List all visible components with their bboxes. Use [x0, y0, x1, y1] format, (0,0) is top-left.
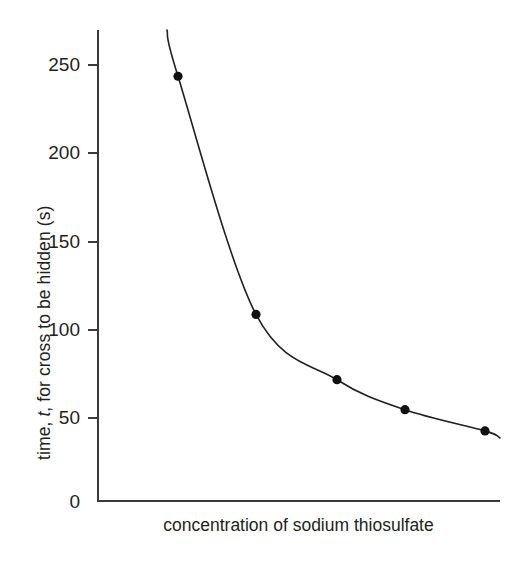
plot-area [0, 0, 509, 565]
data-point [251, 310, 260, 319]
x-axis-title: concentration of sodium thiosulfate [97, 515, 500, 536]
data-point [400, 405, 409, 414]
data-point-group [173, 72, 489, 436]
data-point [173, 72, 182, 81]
data-point [332, 375, 341, 384]
data-point [480, 426, 489, 435]
chart-figure: time, t, for cross to be hidden (s) 250 … [0, 0, 509, 565]
